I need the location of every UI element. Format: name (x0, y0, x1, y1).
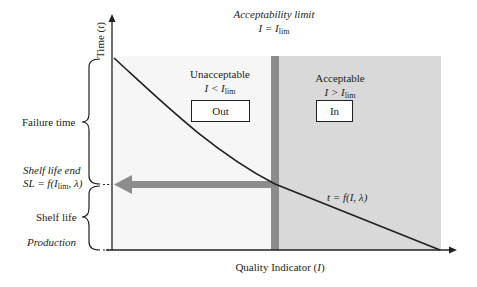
x-axis-variable: I (317, 261, 321, 273)
in-box: In (316, 100, 353, 122)
failure-time-brace-icon (82, 59, 100, 184)
limit-eq-text: I = I (259, 22, 279, 34)
sl-formula-post: , λ) (68, 177, 82, 189)
shelf-life-formula: SL = f(Ilim, λ) (23, 177, 82, 193)
y-axis-label: Time (t) (94, 22, 106, 58)
production-label: Production (27, 236, 76, 249)
sl-formula-pre: SL = f(I (23, 177, 58, 189)
unacceptable-title: Unacceptable (180, 68, 260, 81)
shelf-life-end-label: Shelf life end (23, 164, 80, 177)
acceptability-limit-equation: I = Ilim (214, 22, 334, 38)
acceptable-cond-subscript: lim (345, 91, 356, 100)
x-axis-label-text: Quality Indicator (235, 261, 310, 273)
unacceptable-cond-subscript: lim (225, 87, 236, 96)
out-box: Out (191, 100, 250, 122)
acceptable-cond-text: I > I (325, 86, 345, 98)
acceptability-limit-title: Acceptability limit (214, 8, 334, 21)
curve-label: t = f(I, λ) (327, 191, 367, 204)
shelf-life-brace-icon (82, 186, 100, 250)
x-axis-label: Quality Indicator (I) (200, 261, 360, 274)
unacceptable-cond-text: I < I (205, 82, 225, 94)
shelf-life-label: Shelf life (36, 211, 77, 224)
acceptable-title: Acceptable (300, 72, 380, 85)
y-axis-variable: t (94, 26, 106, 29)
y-axis-arrow-icon (109, 14, 116, 22)
unacceptable-condition: I < Ilim (180, 82, 260, 98)
limit-eq-subscript: lim (279, 27, 290, 36)
y-axis-label-text: Time (94, 35, 106, 58)
sl-formula-subscript: lim (58, 182, 69, 191)
failure-time-label: Failure time (22, 116, 75, 129)
acceptability-limit-bar (271, 56, 279, 250)
x-axis-arrow-icon (449, 247, 457, 254)
